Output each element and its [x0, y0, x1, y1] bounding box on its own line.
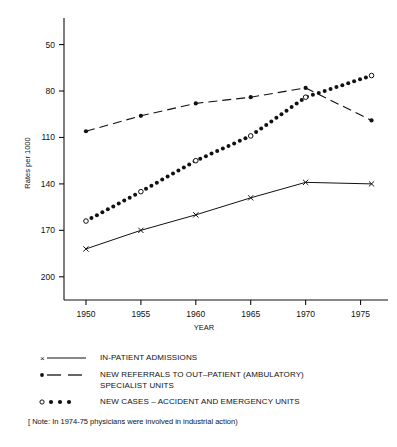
- legend-label-accident-emergency: NEW CASES – ACCIDENT AND EMERGENCY UNITS: [100, 396, 300, 407]
- series-accident-emergency-marker: [139, 189, 144, 194]
- series-accident-emergency-dot: [334, 85, 338, 89]
- svg-text:×: ×: [40, 354, 45, 363]
- series-accident-emergency-dot: [210, 152, 214, 156]
- legend-key-x-solid-line: ×: [38, 352, 100, 364]
- series-accident-emergency-dot: [290, 105, 294, 109]
- series-accident-emergency-dot: [285, 109, 289, 113]
- series-accident-emergency-dot: [238, 139, 242, 143]
- x-tick-label: 1950: [77, 309, 96, 319]
- legend-note: [ Note: In 1974-75 physicians were invol…: [28, 417, 397, 426]
- series-accident-emergency-dot: [323, 89, 327, 93]
- legend-item-accident-emergency: NEW CASES – ACCIDENT AND EMERGENCY UNITS: [0, 396, 397, 408]
- series-accident-emergency-dot: [106, 207, 110, 211]
- x-tick-label: 1960: [186, 309, 205, 319]
- series-accident-emergency-dot: [346, 81, 350, 85]
- series-accident-emergency-dot: [133, 193, 137, 197]
- legend-key-dot-dashed-line: [38, 369, 100, 381]
- series-accident-emergency-dot: [358, 77, 362, 81]
- series-accident-emergency-dot: [89, 216, 93, 220]
- legend-key-open-dot-dotted-line: [38, 396, 100, 408]
- series-accident-emergency-dot: [171, 172, 175, 176]
- series-out-patient-marker: [304, 86, 308, 90]
- series-accident-emergency-dot: [182, 165, 186, 169]
- x-tick-label: 1975: [351, 309, 370, 319]
- series-accident-emergency-dot: [300, 98, 304, 102]
- x-tick-label: 1965: [241, 309, 260, 319]
- series-out-patient-marker: [139, 114, 143, 118]
- legend-label-out-patient-line2: SPECIALIST UNITS: [100, 380, 304, 391]
- series-accident-emergency-dot: [204, 154, 208, 158]
- y-tick-label: 80: [46, 86, 56, 96]
- series-accident-emergency-dot: [100, 210, 104, 214]
- chart-legend: × IN-PATIENT ADMISSIONS NEW REFERRALS TO…: [0, 352, 397, 447]
- series-accident-emergency-dot: [295, 102, 299, 106]
- series-accident-emergency-dot: [340, 83, 344, 87]
- series-accident-emergency-dot: [226, 144, 230, 148]
- line-chart-svg: 2001701401108050195019551960196519701975…: [0, 0, 397, 350]
- series-accident-emergency-dot: [317, 91, 321, 95]
- series-accident-emergency-dot: [166, 175, 170, 179]
- y-tick-label: 170: [41, 225, 55, 235]
- series-accident-emergency-dot: [243, 136, 247, 140]
- series-accident-emergency-dot: [144, 187, 148, 191]
- series-accident-emergency-dot: [311, 93, 315, 97]
- series-accident-emergency-dot: [274, 116, 278, 120]
- series-accident-emergency-dot: [198, 157, 202, 161]
- series-accident-emergency-dot: [364, 75, 368, 79]
- series-accident-emergency-dot: [264, 123, 268, 127]
- x-tick-label: 1955: [131, 309, 150, 319]
- series-accident-emergency-dot: [155, 181, 159, 185]
- series-accident-emergency-dot: [149, 184, 153, 188]
- series-out-patient-marker: [249, 95, 253, 99]
- x-axis-title: YEAR: [194, 323, 215, 332]
- series-out-patient-marker: [369, 118, 373, 122]
- chart-plot-area: 2001701401108050195019551960196519701975…: [0, 0, 397, 350]
- y-tick-label: 50: [46, 40, 56, 50]
- series-accident-emergency-marker: [84, 219, 89, 224]
- series-accident-emergency-dot: [111, 204, 115, 208]
- y-tick-label: 110: [41, 132, 55, 142]
- series-accident-emergency-marker: [248, 134, 253, 139]
- series-accident-emergency-dot: [215, 149, 219, 153]
- series-accident-emergency-dot: [352, 79, 356, 83]
- legend-label-in-patient: IN-PATIENT ADMISSIONS: [100, 352, 197, 363]
- series-out-patient-marker: [84, 129, 88, 133]
- chart-page: 2001701401108050195019551960196519701975…: [0, 0, 397, 447]
- series-in-patient-line: [86, 182, 372, 249]
- series-accident-emergency-dot: [279, 112, 283, 116]
- y-tick-label: 200: [41, 272, 55, 282]
- series-accident-emergency-marker: [303, 95, 308, 100]
- series-accident-emergency-dot: [221, 146, 225, 150]
- series-accident-emergency-dot: [160, 178, 164, 182]
- series-accident-emergency-dot: [117, 201, 121, 205]
- legend-item-in-patient: × IN-PATIENT ADMISSIONS: [0, 352, 397, 364]
- x-tick-label: 1970: [296, 309, 315, 319]
- series-accident-emergency-dot: [254, 130, 258, 134]
- series-accident-emergency-dot: [259, 127, 263, 131]
- series-accident-emergency-marker: [193, 158, 198, 163]
- y-axis-title: Rates per 1000: [23, 137, 32, 188]
- y-tick-label: 140: [41, 179, 55, 189]
- series-accident-emergency-dot: [122, 199, 126, 203]
- series-accident-emergency-dot: [329, 87, 333, 91]
- series-in-patient-marker: [83, 246, 88, 251]
- series-accident-emergency-dot: [269, 119, 273, 123]
- series-accident-emergency-dot: [95, 213, 99, 217]
- legend-label-out-patient-block: NEW REFERRALS TO OUT–PATIENT (AMBULATORY…: [100, 369, 304, 391]
- legend-label-out-patient: NEW REFERRALS TO OUT–PATIENT (AMBULATORY…: [100, 369, 304, 380]
- series-accident-emergency-dot: [176, 168, 180, 172]
- series-accident-emergency-dot: [232, 141, 236, 145]
- series-out-patient-marker: [194, 101, 198, 105]
- series-accident-emergency-marker: [369, 73, 374, 78]
- series-accident-emergency-dot: [187, 162, 191, 166]
- series-out-patient-line: [86, 88, 372, 131]
- legend-item-out-patient: NEW REFERRALS TO OUT–PATIENT (AMBULATORY…: [0, 369, 397, 391]
- series-accident-emergency-dot: [128, 196, 132, 200]
